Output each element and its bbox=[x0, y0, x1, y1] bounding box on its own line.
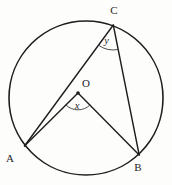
label-point-b: B bbox=[134, 161, 141, 173]
chord-c-b bbox=[113, 25, 139, 155]
circle-diagram: C O A B x y bbox=[0, 0, 172, 185]
label-point-a: A bbox=[6, 152, 14, 164]
chord-c-a bbox=[25, 25, 114, 146]
geometry-figure: C O A B x y bbox=[0, 0, 172, 185]
circle-outline bbox=[9, 21, 163, 175]
angle-arc-y bbox=[99, 45, 119, 50]
label-angle-x: x bbox=[74, 100, 80, 111]
radius-o-b bbox=[78, 93, 139, 155]
label-point-c: C bbox=[110, 4, 117, 16]
radius-o-a bbox=[25, 93, 79, 146]
label-angle-y: y bbox=[103, 35, 109, 46]
center-point-dot bbox=[76, 91, 80, 95]
label-center-o: O bbox=[82, 77, 90, 89]
